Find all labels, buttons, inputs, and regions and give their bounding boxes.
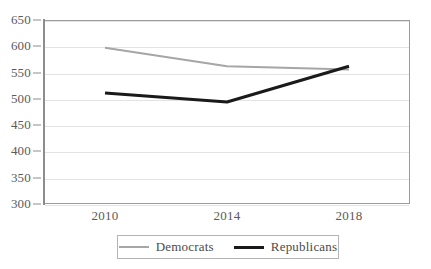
y-axis-tick-mark (33, 20, 41, 21)
gridline (45, 100, 409, 101)
y-axis-tick-mark (33, 46, 41, 47)
line-chart-figure: 650600550500450400350300 201020142018 De… (0, 0, 431, 269)
y-axis-tick-label: 500 (11, 91, 31, 107)
y-axis-tick-label: 350 (11, 170, 31, 186)
gridline (45, 21, 409, 22)
y-axis-tick-label: 550 (11, 65, 31, 81)
y-axis-tick-label: 400 (11, 143, 31, 159)
y-axis: 650600550500450400350300 (0, 0, 44, 224)
x-axis-tick-label: 2014 (214, 208, 241, 224)
gridline (45, 179, 409, 180)
plot-area (44, 20, 410, 204)
legend-line-swatch-democrats (119, 246, 149, 248)
x-axis-tick-label: 2018 (336, 208, 363, 224)
gridline (45, 126, 409, 127)
y-axis-tick-label: 600 (11, 38, 31, 54)
y-axis-tick-mark (33, 98, 41, 99)
y-axis-tick-label: 450 (11, 117, 31, 133)
y-axis-tick-label: 300 (11, 196, 31, 212)
x-axis-tick-label: 2010 (92, 208, 119, 224)
gridline (45, 74, 409, 75)
y-axis-tick-label: 650 (11, 12, 31, 28)
legend-label-democrats: Democrats (156, 239, 214, 255)
y-axis-tick-mark (33, 151, 41, 152)
legend-label-republicans: Republicans (271, 239, 337, 255)
gridline (45, 205, 409, 206)
legend-line-swatch-republicans (234, 246, 264, 249)
gridlines (45, 21, 409, 203)
y-axis-tick-mark (33, 72, 41, 73)
y-axis-tick-mark (33, 177, 41, 178)
gridline (45, 47, 409, 48)
y-axis-tick-mark (33, 204, 41, 205)
gridline (45, 152, 409, 153)
legend-item-republicans: Republicans (234, 239, 337, 255)
y-axis-tick-mark (33, 125, 41, 126)
legend-item-democrats: Democrats (119, 239, 214, 255)
chart-legend: Democrats Republicans (117, 235, 339, 259)
